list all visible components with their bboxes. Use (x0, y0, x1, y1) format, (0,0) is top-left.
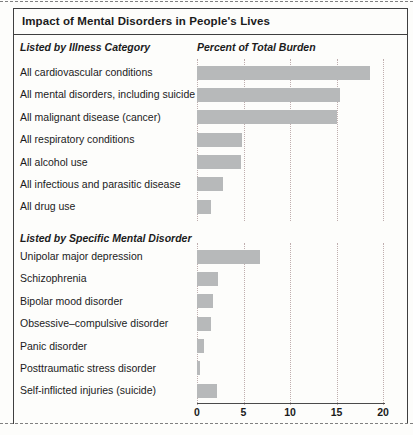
category-label: All drug use (20, 200, 75, 212)
category-label: Self-inflicted injuries (suicide) (20, 384, 156, 396)
bar (197, 88, 340, 102)
axis-ticks: 05101520 (14, 406, 407, 420)
bar (197, 250, 260, 264)
figure-title: Impact of Mental Disorders in People's L… (14, 9, 407, 35)
bar (197, 294, 213, 308)
category-label: All infectious and parasitic disease (20, 178, 181, 190)
chart-row: All infectious and parasitic disease (14, 174, 407, 196)
chart-row: All respiratory conditions (14, 129, 407, 151)
chart-row: Schizophrenia (14, 268, 407, 290)
chart-row: Obsessive–compulsive disorder (14, 313, 407, 335)
chart-row: All mental disorders, including suicide (14, 84, 407, 106)
bar (197, 110, 337, 124)
category-label: All malignant disease (cancer) (20, 111, 161, 123)
bar (197, 177, 223, 191)
bar (197, 339, 204, 353)
chart-row: All malignant disease (cancer) (14, 107, 407, 129)
page-top-dashed-rule (0, 1, 413, 2)
chart-row: Unipolar major depression (14, 246, 407, 268)
chart-row: All cardiovascular conditions (14, 62, 407, 84)
bar (197, 66, 370, 80)
chart-row: Panic disorder (14, 336, 407, 358)
bar (197, 133, 242, 147)
illness-category-section: All cardiovascular conditionsAll mental … (14, 62, 407, 219)
axis-tick-label: 5 (232, 406, 256, 418)
axis-tick-label: 10 (278, 406, 302, 418)
illness-category-header: Listed by Illness Category (20, 41, 150, 53)
category-label: Panic disorder (20, 340, 87, 352)
page-bottom-dashed-rule (0, 423, 413, 424)
chart-row: All alcohol use (14, 152, 407, 174)
chart-row: All drug use (14, 196, 407, 218)
percent-total-burden-header: Percent of Total Burden (197, 41, 316, 53)
category-label: All mental disorders, including suicide (20, 88, 195, 100)
specific-mental-disorder-section: Unipolar major depressionSchizophreniaBi… (14, 246, 407, 403)
column-headers-row: Listed by Illness Category Percent of To… (14, 41, 407, 55)
category-label: All alcohol use (20, 156, 88, 168)
bar (197, 317, 211, 331)
specific-mental-disorder-heading: Listed by Specific Mental Disorder (20, 232, 192, 244)
category-label: Bipolar mood disorder (20, 295, 123, 307)
chart-row: Self-inflicted injuries (suicide) (14, 380, 407, 402)
bar (197, 155, 241, 169)
scanned-document-page: Impact of Mental Disorders in People's L… (0, 0, 413, 435)
axis-tick-label: 20 (371, 406, 395, 418)
bar (197, 272, 218, 286)
axis-tick-label: 0 (185, 406, 209, 418)
bar (197, 384, 217, 398)
category-label: All cardiovascular conditions (20, 66, 152, 78)
category-label: All respiratory conditions (20, 133, 134, 145)
category-label: Obsessive–compulsive disorder (20, 317, 168, 329)
bar (197, 200, 211, 214)
category-label: Unipolar major depression (20, 250, 143, 262)
axis-tick-label: 15 (325, 406, 349, 418)
x-axis-line (197, 403, 385, 404)
figure-box: Impact of Mental Disorders in People's L… (13, 8, 408, 424)
category-label: Posttraumatic stress disorder (20, 362, 156, 374)
chart-row: Posttraumatic stress disorder (14, 358, 407, 380)
bar (197, 361, 200, 375)
chart-row: Bipolar mood disorder (14, 291, 407, 313)
category-label: Schizophrenia (20, 272, 87, 284)
